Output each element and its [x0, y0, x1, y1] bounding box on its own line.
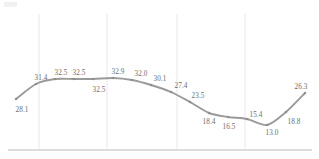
data-label: 31.4 — [35, 75, 48, 82]
data-label: 13.0 — [266, 130, 279, 137]
data-point-marker — [170, 91, 172, 93]
data-label: 30.1 — [154, 76, 167, 83]
data-point-marker — [285, 111, 287, 113]
data-label: 28.1 — [16, 107, 29, 114]
data-label: 32.9 — [112, 69, 125, 76]
data-label: 16.5 — [223, 124, 236, 131]
data-point-marker — [73, 78, 75, 80]
data-label: 32.5 — [93, 87, 106, 94]
data-point-marker — [208, 112, 210, 114]
data-point-marker — [112, 77, 114, 79]
data-label: 18.4 — [203, 119, 216, 126]
data-label: 32.5 — [73, 70, 86, 77]
data-label: 18.8 — [288, 119, 301, 126]
data-point-marker — [227, 116, 229, 118]
data-point-marker — [150, 84, 152, 86]
data-point-marker — [189, 101, 191, 103]
data-label: 23.5 — [192, 93, 205, 100]
data-label: 26.3 — [295, 84, 308, 91]
data-point-marker — [304, 92, 306, 94]
data-point-marker — [35, 83, 37, 85]
data-point-marker — [131, 79, 133, 81]
data-label: 32.5 — [55, 70, 68, 77]
data-point-marker — [246, 118, 248, 120]
data-label: 32.0 — [135, 71, 148, 78]
data-label: 27.4 — [175, 83, 188, 90]
data-point-marker — [266, 124, 268, 126]
data-point-marker — [54, 78, 56, 80]
data-point-marker — [15, 98, 17, 100]
data-point-marker — [92, 78, 94, 80]
line-chart: 28.131.432.532.532.532.932.030.127.423.5… — [0, 0, 319, 159]
data-label: 15.4 — [250, 112, 263, 119]
